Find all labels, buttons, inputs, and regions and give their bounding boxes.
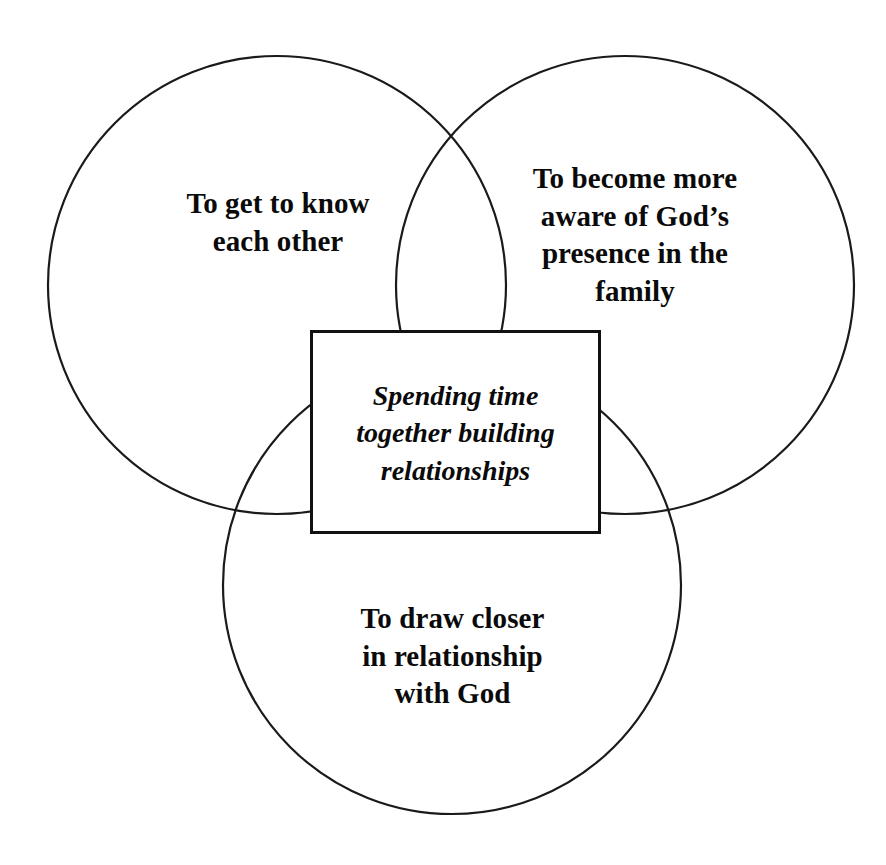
venn-diagram-canvas: To get to know each other To become more… [0, 0, 886, 865]
circle-label-top-left: To get to know each other [88, 185, 468, 260]
center-intersection-label: Spending time together building relation… [342, 377, 568, 490]
center-intersection-box: Spending time together building relation… [310, 330, 601, 534]
circle-label-bottom: To draw closer in relationship with God [300, 600, 605, 713]
circle-label-top-right: To become more aware of God’s presence i… [470, 160, 800, 311]
